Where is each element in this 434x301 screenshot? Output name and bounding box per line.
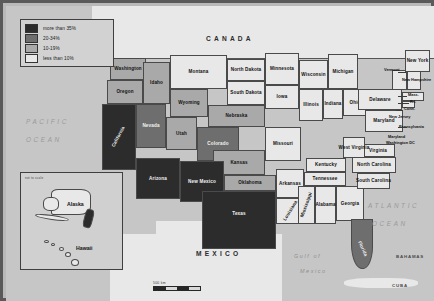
state-label: Mississippi bbox=[300, 192, 314, 218]
inset-alaska-west bbox=[43, 197, 59, 211]
inset-alaska-hawaii[interactable]: not to scale Alaska Hawaii bbox=[20, 172, 123, 270]
leader-line bbox=[398, 127, 407, 128]
state-idaho[interactable]: Idaho bbox=[143, 62, 170, 104]
state-label: Iowa bbox=[277, 95, 288, 100]
legend-item[interactable]: more than 35% bbox=[25, 23, 110, 33]
state-label: New York bbox=[407, 59, 429, 64]
state-label: California bbox=[112, 126, 127, 148]
state-label: Nebraska bbox=[226, 114, 248, 119]
state-montana[interactable]: Montana bbox=[170, 55, 227, 89]
state-label: Florida bbox=[356, 240, 368, 257]
state-mississippi[interactable]: Mississippi bbox=[298, 186, 315, 224]
state-kentucky[interactable]: Kentucky bbox=[306, 158, 346, 172]
label-pacific: PACIFIC bbox=[26, 118, 69, 125]
inset-hawaii-isle bbox=[65, 252, 71, 257]
inset-hawaii-isle bbox=[71, 259, 79, 266]
state-label: South Dakota bbox=[230, 91, 261, 96]
state-wisconsin[interactable]: Wisconsin bbox=[299, 60, 328, 89]
state-maine[interactable]: New York bbox=[405, 50, 430, 72]
state-label: Illinois bbox=[303, 103, 319, 108]
state-label: Virginia bbox=[369, 148, 387, 153]
scale-label: 500 km bbox=[153, 281, 201, 285]
state-wyoming[interactable]: Wyoming bbox=[170, 89, 208, 117]
state-label: Michigan bbox=[332, 69, 353, 74]
inset-hawaii-isle bbox=[51, 243, 55, 246]
legend-item[interactable]: less than 10% bbox=[25, 53, 110, 63]
state-illinois[interactable]: Illinois bbox=[299, 89, 323, 121]
state-florida[interactable]: Florida bbox=[351, 219, 373, 269]
label-atlantic: ATLANTIC bbox=[368, 202, 419, 209]
inset-label-hawaii: Hawaii bbox=[76, 245, 92, 251]
legend-swatch-less-than-10 bbox=[25, 54, 38, 63]
state-oregon[interactable]: Oregon bbox=[107, 80, 143, 104]
state-label: Delaware bbox=[369, 97, 390, 102]
state-utah[interactable]: Utah bbox=[166, 117, 197, 150]
state-nevada[interactable]: Nevada bbox=[136, 104, 166, 148]
inset-note: not to scale bbox=[25, 176, 43, 180]
state-indiana[interactable]: Indiana bbox=[323, 89, 343, 119]
legend-label: 20-34% bbox=[43, 36, 60, 41]
map-frame: Washington Oregon Idaho Montana Wyoming … bbox=[0, 0, 434, 301]
leader-line bbox=[398, 96, 407, 97]
leader-line bbox=[398, 103, 409, 104]
state-west-virginia[interactable]: West Virginia bbox=[343, 137, 365, 158]
label-pacific-ocean: OCEAN bbox=[26, 136, 62, 143]
legend-swatch-20-34 bbox=[25, 34, 38, 43]
state-label: Washington bbox=[114, 67, 142, 72]
state-label: Utah bbox=[176, 131, 187, 136]
legend-item[interactable]: 10-19% bbox=[25, 43, 110, 53]
label-atlantic-ocean: OCEAN bbox=[372, 220, 408, 227]
inset-hawaii-isle bbox=[59, 247, 64, 251]
state-label: West Virginia bbox=[339, 145, 370, 150]
state-label: Nevada bbox=[142, 124, 159, 129]
state-north-carolina[interactable]: North Carolina bbox=[352, 157, 396, 173]
inset-hawaii-isle bbox=[44, 240, 49, 243]
state-south-dakota[interactable]: South Dakota bbox=[227, 81, 265, 105]
label-bahamas: BAHAMAS bbox=[396, 254, 424, 259]
state-arizona[interactable]: Arizona bbox=[136, 158, 180, 199]
label-canada: CANADA bbox=[206, 35, 254, 42]
state-south-carolina[interactable]: South Carolina bbox=[357, 173, 390, 189]
state-label: Texas bbox=[232, 212, 245, 217]
state-iowa[interactable]: Iowa bbox=[265, 85, 299, 109]
state-minnesota[interactable]: Minnesota bbox=[265, 53, 299, 85]
state-oklahoma[interactable]: Oklahoma bbox=[224, 175, 276, 191]
legend: more than 35% 20-34% 10-19% less than 10… bbox=[20, 19, 114, 67]
label-washington-dc: Washington DC bbox=[386, 140, 415, 145]
state-label: Oregon bbox=[116, 90, 133, 95]
state-texas[interactable]: Texas bbox=[202, 191, 276, 249]
state-north-dakota[interactable]: North Dakota bbox=[227, 59, 265, 81]
legend-label: more than 35% bbox=[43, 26, 76, 31]
state-label: South Carolina bbox=[356, 178, 391, 183]
label-connecticut: Conn. bbox=[404, 106, 415, 111]
state-label: Alabama bbox=[315, 203, 335, 208]
state-label: Oklahoma bbox=[238, 181, 261, 186]
state-label: Indiana bbox=[324, 102, 341, 107]
legend-item[interactable]: 20-34% bbox=[25, 33, 110, 43]
state-california[interactable]: California bbox=[102, 104, 136, 170]
state-tennessee[interactable]: Tennessee bbox=[304, 172, 346, 186]
state-label: Arizona bbox=[149, 176, 167, 181]
state-label: Kansas bbox=[230, 160, 247, 165]
state-nebraska[interactable]: Nebraska bbox=[208, 105, 265, 127]
state-label: Louisiana bbox=[282, 200, 298, 222]
state-missouri[interactable]: Missouri bbox=[265, 127, 301, 161]
state-label: Wisconsin bbox=[301, 72, 325, 77]
state-label: Colorado bbox=[207, 142, 228, 147]
label-massachusetts: Mass. bbox=[408, 92, 419, 97]
state-label: Montana bbox=[189, 70, 209, 75]
state-label: New Mexico bbox=[188, 179, 216, 184]
state-label: Minnesota bbox=[270, 67, 294, 72]
state-michigan[interactable]: Michigan bbox=[328, 54, 358, 89]
state-label: North Carolina bbox=[357, 162, 391, 167]
leader-line bbox=[398, 72, 406, 73]
state-georgia[interactable]: Georgia bbox=[336, 186, 364, 221]
label-maryland: Maryland bbox=[388, 134, 405, 139]
label-mexico: MEXICO bbox=[196, 250, 241, 257]
state-alabama[interactable]: Alabama bbox=[315, 186, 336, 224]
state-label: Maryland bbox=[373, 118, 394, 123]
state-new-york[interactable]: Delaware bbox=[358, 89, 402, 110]
state-washington[interactable]: Washington bbox=[110, 58, 146, 80]
state-label: North Dakota bbox=[231, 68, 262, 73]
scale-bar-group: 500 km bbox=[153, 281, 201, 291]
